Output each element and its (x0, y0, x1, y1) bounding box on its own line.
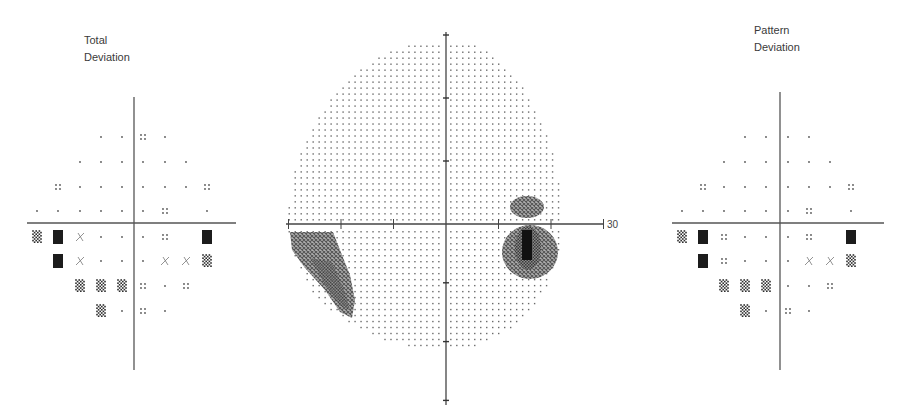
symbol-p2 (161, 257, 169, 265)
visual-field-canvas: 30 (0, 0, 904, 417)
symbol-p1 (96, 279, 106, 292)
symbol-dot (121, 310, 123, 312)
symbol-dot (744, 236, 746, 238)
symbol-p05 (202, 230, 212, 244)
greyscale-axis-label-30: 30 (607, 219, 619, 230)
symbol-p5 (785, 308, 791, 314)
symbol-p05 (698, 230, 708, 244)
symbol-dot (829, 186, 831, 188)
symbol-dot (164, 285, 166, 287)
symbol-p2 (826, 257, 834, 265)
symbol-dot (723, 210, 725, 212)
symbol-dot (185, 186, 187, 188)
symbol-dot (765, 236, 767, 238)
symbol-p1 (846, 254, 856, 267)
symbol-dot (100, 186, 102, 188)
symbol-dot (121, 210, 123, 212)
symbol-dot (744, 210, 746, 212)
symbol-p5 (162, 234, 168, 240)
greyscale-dot-field (289, 46, 560, 347)
total-deviation-plot (27, 97, 236, 370)
symbol-dot (744, 136, 746, 138)
symbol-p2 (76, 257, 84, 265)
pattern-deviation-plot (672, 92, 884, 370)
symbol-dot (765, 310, 767, 312)
symbol-dot (100, 210, 102, 212)
symbol-dot (723, 161, 725, 163)
symbol-p5 (721, 258, 727, 264)
symbol-dot (681, 210, 683, 212)
symbol-p1 (719, 279, 729, 292)
symbol-p05 (846, 230, 856, 244)
symbol-dot (164, 136, 166, 138)
symbol-dot (744, 260, 746, 262)
symbol-dot (787, 186, 789, 188)
symbol-dot (185, 161, 187, 163)
symbol-p5 (806, 208, 812, 214)
greyscale-defects (290, 196, 558, 318)
symbol-dot (121, 260, 123, 262)
symbol-p5 (140, 283, 146, 289)
symbol-dot (100, 161, 102, 163)
symbol-dot (787, 210, 789, 212)
symbol-dot (57, 210, 59, 212)
symbol-dot (164, 161, 166, 163)
symbol-p5 (162, 208, 168, 214)
symbol-dot (142, 161, 144, 163)
symbol-dot (765, 136, 767, 138)
symbol-dot (723, 186, 725, 188)
symbol-p1 (32, 230, 42, 243)
symbol-dot (787, 236, 789, 238)
symbol-p5 (848, 184, 854, 190)
symbol-dot (121, 236, 123, 238)
symbol-dot (79, 161, 81, 163)
symbol-dot (142, 260, 144, 262)
symbol-p2 (76, 233, 84, 241)
symbol-dot (808, 285, 810, 287)
symbol-dot (100, 260, 102, 262)
symbol-dot (142, 236, 144, 238)
greyscale-plot (286, 32, 604, 405)
symbol-p05 (53, 254, 63, 268)
symbol-dot (787, 161, 789, 163)
symbol-dot (808, 136, 810, 138)
symbol-p05 (53, 230, 63, 244)
symbol-dot (121, 186, 123, 188)
symbol-dot (142, 210, 144, 212)
symbol-dot (164, 186, 166, 188)
symbol-dot (808, 310, 810, 312)
symbol-dot (142, 186, 144, 188)
symbol-dot (765, 210, 767, 212)
symbol-p1 (677, 230, 687, 243)
symbol-dot (121, 136, 123, 138)
symbol-dot (36, 210, 38, 212)
symbol-dot (121, 161, 123, 163)
symbol-dot (744, 161, 746, 163)
symbol-p5 (140, 308, 146, 314)
symbol-p2 (805, 257, 813, 265)
symbol-p5 (204, 184, 210, 190)
symbol-p1 (740, 279, 750, 292)
symbol-p5 (827, 283, 833, 289)
superior-temporal-defect (510, 196, 544, 218)
symbol-p1 (740, 304, 750, 317)
symbol-dot (164, 310, 166, 312)
blind-spot-defect-core (522, 230, 532, 260)
symbol-p5 (55, 184, 61, 190)
symbol-p1 (761, 279, 771, 292)
symbol-dot (808, 186, 810, 188)
symbol-dot (808, 161, 810, 163)
symbol-dot (744, 186, 746, 188)
symbol-p5 (183, 283, 189, 289)
symbol-dot (79, 210, 81, 212)
symbol-p2 (182, 257, 190, 265)
symbol-dot (100, 236, 102, 238)
symbol-p5 (721, 234, 727, 240)
symbol-dot (100, 136, 102, 138)
symbol-p1 (117, 279, 127, 292)
symbol-dot (829, 161, 831, 163)
symbol-dot (702, 210, 704, 212)
symbol-p5 (140, 134, 146, 140)
symbol-dot (787, 285, 789, 287)
symbol-dot (79, 186, 81, 188)
